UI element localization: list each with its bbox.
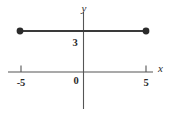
x-axis-label: x [157, 62, 163, 74]
coordinate-plane-svg: y x 3 0 -5 5 [0, 0, 171, 117]
endpoint-dot-left [17, 28, 24, 35]
origin-label: 0 [73, 75, 78, 86]
coordinate-plane-figure: y x 3 0 -5 5 [0, 0, 171, 117]
y-axis-label: y [81, 2, 87, 14]
x-tick-label-plus-5: 5 [143, 77, 148, 88]
y-value-label-3: 3 [72, 37, 77, 48]
x-tick-label-minus-5: -5 [17, 77, 26, 88]
endpoint-dot-right [143, 28, 150, 35]
